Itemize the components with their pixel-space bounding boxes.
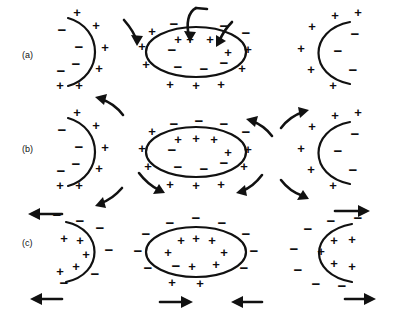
charge-positive: +: [331, 8, 339, 23]
charge-positive: +: [56, 178, 64, 193]
charge-positive: +: [95, 161, 103, 176]
charge-negative: −: [240, 259, 249, 276]
charge-positive: +: [297, 41, 305, 56]
charge-positive: +: [224, 145, 232, 160]
charge-negative: −: [57, 162, 66, 179]
charge-negative: −: [170, 115, 179, 132]
charge-negative: −: [58, 21, 67, 38]
charge-positive: +: [330, 233, 338, 248]
charge-positive: +: [138, 141, 146, 156]
membrane-polarization-figure: (a) − − − − + + + + + + − − − − + +: [0, 0, 393, 323]
charge-positive: +: [192, 231, 200, 246]
charge-negative: −: [144, 259, 153, 276]
charge-positive: +: [224, 45, 232, 60]
charge-negative: −: [76, 212, 85, 229]
charge-positive: +: [212, 257, 220, 272]
charge-negative: −: [304, 220, 313, 237]
charge-positive: +: [317, 244, 325, 259]
charge-negative: −: [200, 60, 209, 77]
charge-negative: −: [75, 138, 84, 155]
charge-negative: −: [195, 112, 204, 129]
charge-positive: +: [208, 233, 216, 248]
charge-positive: +: [166, 77, 174, 92]
charge-positive: +: [348, 259, 356, 274]
charge-positive: +: [244, 42, 252, 57]
charge-positive: +: [206, 32, 214, 47]
charge-positive: +: [329, 78, 337, 93]
charge-positive: +: [308, 19, 316, 34]
charge-negative: −: [242, 24, 251, 41]
charge-negative: −: [174, 58, 183, 75]
charge-negative: −: [294, 261, 303, 278]
charge-negative: −: [220, 115, 229, 132]
charge-negative: −: [242, 123, 251, 140]
charge-negative: −: [334, 42, 343, 59]
charge-positive: +: [188, 259, 196, 274]
charge-positive: +: [177, 233, 185, 248]
charge-positive: +: [354, 5, 362, 20]
charge-positive: +: [307, 62, 315, 77]
charge-positive: +: [75, 78, 83, 93]
charge-positive: +: [297, 141, 305, 156]
charge-negative: −: [72, 55, 81, 72]
charge-negative: −: [290, 240, 299, 257]
charge-negative: −: [96, 219, 105, 236]
charge-negative: −: [351, 25, 360, 42]
charge-negative: −: [250, 242, 259, 259]
charge-positive: +: [348, 232, 356, 247]
charge-negative: −: [349, 61, 358, 78]
charge-positive: +: [92, 118, 100, 133]
charge-positive: +: [101, 140, 109, 155]
charge-negative: −: [334, 142, 343, 159]
charge-negative: −: [170, 15, 179, 32]
charge-negative: −: [349, 161, 358, 178]
charge-positive: +: [92, 18, 100, 33]
charge-negative: −: [192, 209, 201, 226]
charge-positive: +: [101, 40, 109, 55]
charge-negative: −: [327, 212, 336, 229]
charge-negative: −: [105, 241, 114, 258]
charge-negative: −: [172, 257, 181, 274]
charge-positive: +: [307, 162, 315, 177]
charge-positive: +: [196, 276, 204, 291]
charge-positive: +: [148, 24, 156, 39]
charge-positive: +: [192, 178, 200, 193]
charge-positive: +: [330, 256, 338, 271]
charge-positive: +: [244, 142, 252, 157]
charge-negative: −: [338, 277, 347, 294]
charge-positive: +: [220, 245, 228, 260]
row-c-label: (c): [22, 238, 33, 248]
charge-negative: −: [58, 121, 67, 138]
charge-positive: +: [217, 177, 225, 192]
charge-positive: +: [308, 119, 316, 134]
charge-positive: +: [73, 105, 81, 120]
charge-positive: +: [217, 77, 225, 92]
charge-negative: −: [75, 38, 84, 55]
charge-positive: +: [60, 231, 68, 246]
charge-positive: +: [166, 177, 174, 192]
charge-positive: +: [75, 178, 83, 193]
charge-positive: +: [142, 57, 150, 72]
charge-positive: +: [76, 233, 84, 248]
row-b-label: (b): [22, 144, 33, 154]
charge-positive: +: [72, 259, 80, 274]
charge-positive: +: [56, 78, 64, 93]
charge-negative: −: [166, 214, 175, 231]
charge-positive: +: [95, 61, 103, 76]
charge-negative: −: [60, 274, 69, 291]
charge-negative: −: [242, 225, 251, 242]
charge-negative: −: [91, 265, 100, 282]
charge-negative: −: [351, 125, 360, 142]
charge-positive: +: [210, 132, 218, 147]
figure-canvas: (a) − − − − + + + + + + − − − − + +: [0, 0, 393, 323]
charge-positive: +: [148, 124, 156, 139]
charge-positive: +: [192, 78, 200, 93]
charge-negative: −: [218, 214, 227, 231]
row-a-label: (a): [22, 50, 33, 60]
charge-negative: −: [72, 155, 81, 172]
charge-negative: −: [200, 160, 209, 177]
charge-positive: +: [240, 159, 248, 174]
charge-negative: −: [134, 242, 143, 259]
charge-positive: +: [331, 108, 339, 123]
charge-positive: +: [144, 159, 152, 174]
